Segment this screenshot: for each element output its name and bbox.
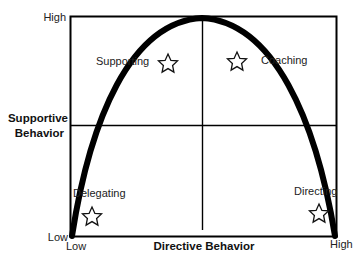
x-axis-high-label: High: [330, 238, 353, 250]
star-icon: [159, 54, 178, 72]
y-axis-high-label: High: [43, 11, 66, 23]
x-axis-title: Directive Behavior: [154, 240, 256, 252]
star-icon: [228, 52, 247, 70]
star-icon: [310, 204, 329, 222]
quadrant-label-delegating: Delegating: [73, 187, 126, 199]
chart-frame: [71, 17, 337, 237]
leadership-diagram: Supporting Coaching Delegating Directing…: [0, 0, 361, 263]
quadrant-label-supporting: Supporting: [96, 55, 149, 67]
quadrant-label-directing: Directing: [294, 185, 337, 197]
x-axis-low-label: Low: [66, 240, 86, 252]
leadership-curve: [72, 18, 335, 236]
y-axis-title-line1: Supportive: [8, 112, 68, 124]
y-axis-low-label: Low: [48, 231, 68, 243]
quadrant-label-coaching: Coaching: [261, 54, 307, 66]
star-icon: [83, 207, 102, 225]
y-axis-title-line2: Behavior: [15, 127, 65, 139]
